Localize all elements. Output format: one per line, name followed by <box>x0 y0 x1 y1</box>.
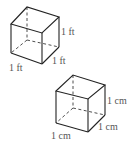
cube-cm-width-label: 1 cm <box>51 130 71 141</box>
cube-foot-width-label: 1 ft <box>9 62 23 73</box>
cube-cm-depth-label: 1 cm <box>98 121 118 132</box>
cube-cm-height-label: 1 cm <box>107 95 127 106</box>
hidden-edges <box>11 7 59 53</box>
cube-foot-depth-label: 1 ft <box>52 55 66 66</box>
cube-foot-height-label: 1 ft <box>61 26 75 37</box>
unit-cubes-diagram: 1 ft 1 ft 1 ft 1 cm 1 cm 1 cm <box>0 0 136 143</box>
